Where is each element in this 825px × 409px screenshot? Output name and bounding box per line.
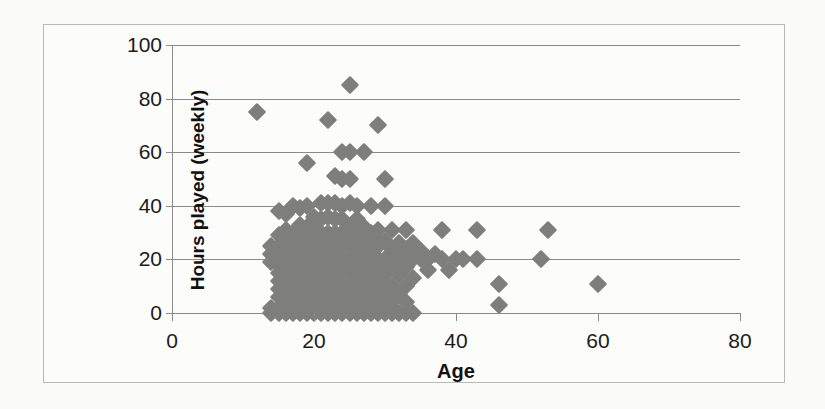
- x-tick-label-20: 20: [284, 330, 344, 351]
- data-point: [376, 170, 394, 188]
- y-tick-80: [166, 99, 173, 100]
- data-point: [489, 296, 507, 314]
- gridline-y-100: [172, 45, 740, 46]
- gridline-y-40: [172, 206, 740, 207]
- x-tick-label-60: 60: [568, 330, 628, 351]
- y-tick-60: [166, 152, 173, 153]
- x-tick-60: [598, 313, 599, 321]
- x-tick-40: [456, 313, 457, 321]
- x-tick-0: [172, 313, 173, 321]
- data-point: [298, 154, 316, 172]
- data-point: [468, 221, 486, 239]
- y-tick-100: [166, 45, 173, 46]
- data-point: [248, 103, 266, 121]
- data-point: [354, 143, 372, 161]
- x-tick-20: [314, 313, 315, 321]
- data-point: [489, 274, 507, 292]
- data-point: [539, 221, 557, 239]
- y-tick-40: [166, 206, 173, 207]
- gridline-y-80: [172, 99, 740, 100]
- scatter-plot-figure: 020406080100 020406080 Age Hours played …: [0, 0, 825, 409]
- data-point: [532, 250, 550, 268]
- data-point: [319, 111, 337, 129]
- y-tick-20: [166, 259, 173, 260]
- x-tick-label-80: 80: [710, 330, 770, 351]
- data-point: [589, 274, 607, 292]
- y-axis-title: Hours played (weekly): [187, 40, 209, 340]
- plot-area: [172, 45, 740, 313]
- data-point: [369, 116, 387, 134]
- x-tick-80: [740, 313, 741, 321]
- x-axis-title: Age: [172, 360, 740, 383]
- data-point: [433, 221, 451, 239]
- data-point: [376, 197, 394, 215]
- gridline-y-60: [172, 152, 740, 153]
- data-point: [468, 250, 486, 268]
- data-point: [340, 76, 358, 94]
- x-tick-label-40: 40: [426, 330, 486, 351]
